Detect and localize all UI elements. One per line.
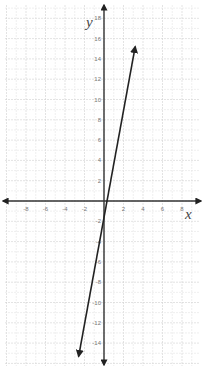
y-tick-label: 18 (94, 15, 101, 21)
y-tick-label: -8 (96, 279, 102, 285)
x-tick-label: -4 (62, 206, 68, 212)
y-tick-label: 14 (94, 56, 101, 62)
y-tick-label: 12 (94, 76, 101, 82)
x-tick-label: -6 (43, 206, 49, 212)
y-axis-label: y (84, 14, 93, 30)
coordinate-plane: -8-6-4-2246818161412108642-2-4-6-8-10-12… (0, 0, 204, 374)
x-tick-label: -2 (82, 206, 88, 212)
y-tick-label: 16 (94, 36, 101, 42)
y-tick-label: -10 (92, 300, 101, 306)
x-tick-label: -8 (23, 206, 29, 212)
grid (5, 5, 200, 366)
y-tick-label: -12 (92, 320, 101, 326)
y-tick-label: -14 (92, 340, 101, 346)
x-axis-label: x (184, 206, 192, 222)
y-tick-label: -2 (96, 218, 102, 224)
y-tick-label: 10 (94, 97, 101, 103)
